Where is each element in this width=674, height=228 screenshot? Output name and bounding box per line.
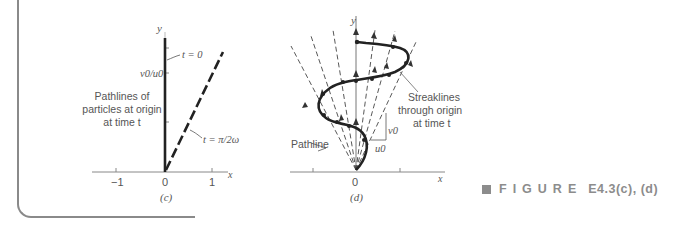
velocity-triangle <box>371 113 386 140</box>
d-origin-label: 0 <box>352 176 358 188</box>
pathline-t-pi <box>166 52 223 170</box>
d-streak-line1: Streaklines <box>408 91 460 103</box>
c-desc-line1: Pathlines of <box>95 90 150 102</box>
c-y-label: y <box>156 22 162 34</box>
d-streak-line3: at time t <box>413 117 450 129</box>
c-x-label: x <box>227 169 233 180</box>
figure-caption: FIGURE E4.3(c), (d) <box>482 182 658 196</box>
helix-pathline <box>319 42 409 170</box>
d-u0-label: u0 <box>375 143 386 154</box>
c-t0-label: t = 0 <box>182 49 203 60</box>
d-pathline-label: Pathline <box>291 138 329 150</box>
c-desc-line3: at time t <box>103 116 140 128</box>
figure-d: y x 0 Pathline Streaklines through origi… <box>290 14 462 204</box>
c-tick-1: 1 <box>209 176 215 188</box>
d-v0-label: v0 <box>388 125 399 136</box>
d-streak-line2: through origin <box>398 104 462 116</box>
d-x-label: x <box>437 173 443 184</box>
d-panel-label: (d) <box>350 191 363 204</box>
c-tpi-label: t = π/2ω <box>203 134 239 145</box>
c-v0u0-label: v0/u0 <box>140 68 164 79</box>
caption-square-icon <box>482 185 491 194</box>
caption-prefix: FIGURE <box>499 182 582 196</box>
c-tick-neg1: −1 <box>111 176 124 188</box>
caption-number: E4.3(c), (d) <box>588 182 658 196</box>
c-tick-0: 0 <box>162 176 168 188</box>
figure-c: y x −1 0 1 v0/u0 t = 0 t = π/2ω Pathline… <box>82 22 239 204</box>
c-panel-label: (c) <box>160 191 173 204</box>
c-desc-line2: particles at origin <box>82 103 162 115</box>
d-y-label: y <box>350 14 356 26</box>
